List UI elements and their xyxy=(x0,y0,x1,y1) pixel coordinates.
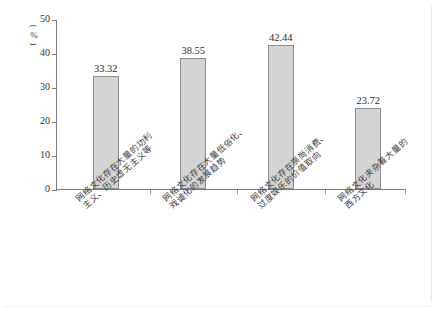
x-axis-tick-mark xyxy=(150,190,151,194)
bar-value-label: 42.44 xyxy=(269,32,293,44)
y-axis-tick-label: 20 xyxy=(40,115,50,127)
x-axis-tick-mark xyxy=(237,190,238,194)
y-axis-tick-mark xyxy=(52,122,57,123)
x-axis-tick-mark xyxy=(325,190,326,194)
y-axis-tick-mark xyxy=(52,190,57,191)
y-axis-tick: 40 xyxy=(56,54,61,55)
y-axis-tick: 30 xyxy=(56,88,61,89)
y-axis-tick: 50 xyxy=(56,20,61,21)
y-axis-tick-mark xyxy=(52,88,57,89)
y-axis-unit-label: ( % ) xyxy=(26,22,42,48)
y-axis-tick-label: 30 xyxy=(40,81,50,93)
y-axis-tick-mark xyxy=(52,54,57,55)
bar-value-label: 23.72 xyxy=(356,95,380,107)
unit-close-paren: ) xyxy=(30,36,38,52)
y-axis-tick-mark xyxy=(52,20,57,21)
y-axis-tick-label: 10 xyxy=(40,149,50,161)
y-axis-tick: 20 xyxy=(56,122,61,123)
y-axis-tick-label: 40 xyxy=(40,47,50,59)
figure-border-right xyxy=(431,6,432,301)
y-axis-tick-label: 0 xyxy=(45,183,50,195)
unit-open-paren: ( xyxy=(30,18,38,34)
x-axis-tick-mark xyxy=(405,190,406,194)
y-axis-tick-label: 50 xyxy=(40,13,50,25)
bar-value-label: 38.55 xyxy=(181,45,205,57)
bar-value-label: 33.32 xyxy=(94,63,118,75)
figure-border-bottom xyxy=(4,306,430,307)
y-axis-line xyxy=(56,20,57,190)
y-axis-tick: 0 xyxy=(56,190,61,191)
y-axis-tick-mark xyxy=(52,156,57,157)
y-axis-tick: 10 xyxy=(56,156,61,157)
bar-chart-figure: ( % ) 01020304050 33.3238.5542.4423.72 网… xyxy=(0,0,434,311)
